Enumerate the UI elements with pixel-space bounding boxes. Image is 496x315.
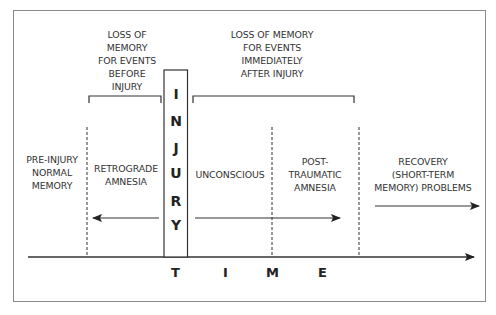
injury-letter: I [164,86,188,102]
bracket-before [89,96,161,103]
axis-letter: E [318,265,327,280]
axis-letter: I [223,265,228,280]
axis-letter: M [266,265,279,280]
label-pre-injury: PRE-INJURY NORMAL MEMORY [20,153,84,192]
bracket-after [193,96,354,103]
axis-letter: T [171,265,180,280]
label-post-traumatic: POST- TRAUMATIC AMNESIA [280,155,350,194]
label-unconscious: UNCONSCIOUS [192,168,268,181]
label-retrograde: RETROGRADE AMNESIA [92,162,160,188]
label-recovery: RECOVERY (SHORT-TERM MEMORY) PROBLEMS [370,155,476,194]
injury-letter: R [164,193,188,209]
label-loss-before: LOSS OF MEMORY FOR EVENTS BEFORE INJURY [95,28,159,93]
label-loss-after: LOSS OF MEMORY FOR EVENTS IMMEDIATELY AF… [222,28,322,80]
injury-letter: U [164,165,188,181]
injury-letter: J [164,140,188,156]
injury-letter: N [164,113,188,129]
injury-letter: Y [164,217,188,233]
